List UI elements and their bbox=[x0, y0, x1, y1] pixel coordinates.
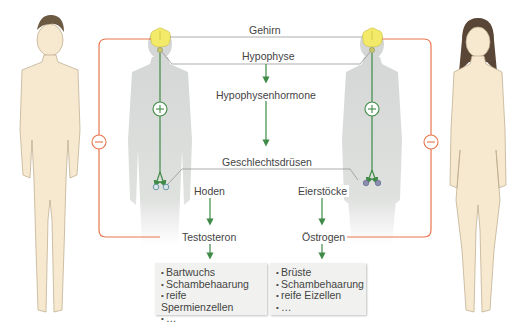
label-pituitary-hormones: Hypophysenhormone bbox=[214, 89, 318, 101]
label-estrogen: Östrogen bbox=[300, 231, 347, 243]
label-pituitary: Hypophyse bbox=[240, 50, 297, 62]
female-effect-item: reife Eizellen bbox=[276, 290, 360, 302]
male-effect-item: reife Spermienzellen bbox=[161, 290, 261, 313]
stimulate-sign-female bbox=[365, 102, 379, 116]
inhibit-sign-male bbox=[92, 135, 106, 149]
male-figure bbox=[20, 15, 80, 312]
male-effect-item: … bbox=[161, 313, 261, 325]
inhibit-sign-female bbox=[424, 135, 438, 149]
label-ovaries: Eierstöcke bbox=[296, 185, 349, 197]
male-effects-box: Bartwuchs Schambehaarung reife Spermienz… bbox=[155, 263, 267, 315]
label-brain: Gehirn bbox=[247, 24, 283, 36]
label-testosterone: Testosteron bbox=[180, 231, 238, 243]
label-testes: Hoden bbox=[192, 185, 227, 197]
female-effect-item: Brüste bbox=[276, 267, 360, 279]
male-effect-item: Bartwuchs bbox=[161, 267, 261, 279]
female-effects-box: Brüste Schambehaarung reife Eizellen … bbox=[270, 263, 366, 315]
female-effect-item: … bbox=[276, 302, 360, 314]
female-figure bbox=[450, 18, 506, 312]
stimulate-sign-male bbox=[153, 102, 167, 116]
label-gonads: Geschlechtsdrüsen bbox=[220, 156, 314, 168]
